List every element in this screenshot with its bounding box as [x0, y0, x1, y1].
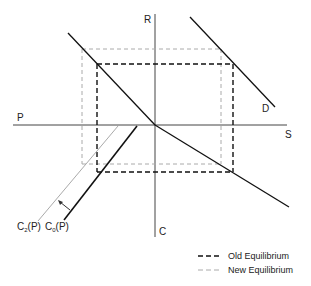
c2-label: C2(P) [17, 221, 41, 233]
lower-right-curve [155, 125, 289, 207]
new-equilibrium-rect [82, 49, 221, 164]
axis-label-p: P [17, 112, 24, 123]
c0-curve [64, 126, 137, 220]
upper-left-curve [68, 33, 155, 125]
c0-label: C0(P) [45, 221, 69, 233]
shift-arrow-icon [58, 200, 70, 210]
axis-label-s: S [285, 129, 292, 140]
demand-label: D [262, 103, 269, 114]
equilibrium-diagram: R C P S D C2(P) C0(P) Old Equilibrium Ne… [0, 0, 311, 286]
legend-new-label: New Equilibrium [228, 265, 293, 275]
legend-old-label: Old Equilibrium [228, 251, 289, 261]
old-equilibrium-rect [97, 64, 233, 172]
c2-curve [38, 126, 118, 221]
demand-curve [190, 17, 275, 107]
axis-label-c: C [159, 226, 166, 237]
legend: Old Equilibrium New Equilibrium [198, 251, 293, 275]
axis-label-r: R [144, 14, 151, 25]
